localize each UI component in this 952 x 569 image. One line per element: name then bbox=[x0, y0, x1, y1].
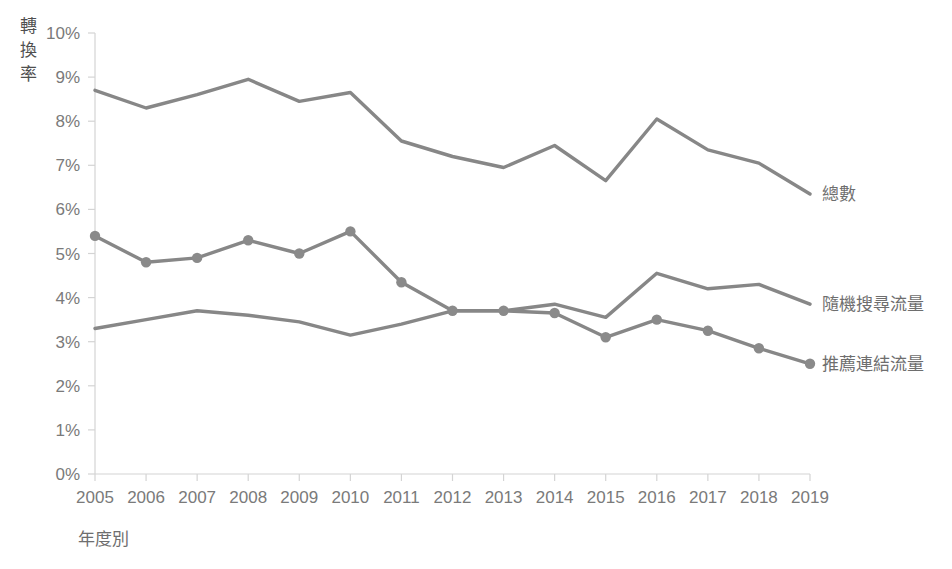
line-chart: 0%1%2%3%4%5%6%7%8%9%10% 2005200620072008… bbox=[0, 0, 952, 569]
x-tick-label: 2016 bbox=[638, 488, 676, 507]
series-marker-point bbox=[652, 314, 662, 324]
series-marker-point bbox=[703, 326, 713, 336]
series-layer bbox=[90, 79, 815, 369]
series-marker-point bbox=[549, 308, 559, 318]
y-tick-label: 10% bbox=[46, 24, 80, 43]
series-line-2 bbox=[95, 231, 810, 363]
series-marker-point bbox=[141, 257, 151, 267]
chart-container: 0%1%2%3%4%5%6%7%8%9%10% 2005200620072008… bbox=[0, 0, 952, 569]
y-tick-label: 7% bbox=[55, 156, 80, 175]
y-axis-title-char: 率 bbox=[20, 65, 38, 84]
x-tick-label: 2010 bbox=[331, 488, 369, 507]
series-marker-point bbox=[498, 306, 508, 316]
series-marker-point bbox=[345, 226, 355, 236]
x-axis-ticks: 2005200620072008200920102011201220132014… bbox=[76, 474, 829, 507]
series-marker-point bbox=[396, 277, 406, 287]
y-tick-label: 1% bbox=[55, 421, 80, 440]
x-tick-label: 2012 bbox=[434, 488, 472, 507]
y-tick-label: 9% bbox=[55, 68, 80, 87]
x-axis-title-label: 年度別 bbox=[78, 530, 129, 549]
series-marker-point bbox=[805, 359, 815, 369]
x-tick-label: 2006 bbox=[127, 488, 165, 507]
y-tick-label: 3% bbox=[55, 333, 80, 352]
series-label-2: 推薦連結流量 bbox=[822, 355, 924, 374]
series-marker-point bbox=[447, 306, 457, 316]
x-tick-label: 2013 bbox=[485, 488, 523, 507]
series-line-1 bbox=[95, 273, 810, 335]
series-label-1: 隨機搜尋流量 bbox=[822, 295, 924, 314]
y-axis-title-char: 轉 bbox=[20, 17, 38, 36]
series-marker-point bbox=[601, 332, 611, 342]
x-tick-label: 2007 bbox=[178, 488, 216, 507]
series-labels: 總數隨機搜尋流量推薦連結流量 bbox=[822, 185, 924, 374]
series-marker-point bbox=[90, 231, 100, 241]
series-marker-point bbox=[754, 343, 764, 353]
series-marker-point bbox=[192, 253, 202, 263]
x-tick-label: 2005 bbox=[76, 488, 114, 507]
series-marker-point bbox=[294, 248, 304, 258]
y-tick-label: 4% bbox=[55, 289, 80, 308]
x-tick-label: 2018 bbox=[740, 488, 778, 507]
series-line-0 bbox=[95, 79, 810, 194]
x-tick-label: 2014 bbox=[536, 488, 574, 507]
y-axis-title-char: 換 bbox=[20, 41, 38, 60]
x-tick-label: 2015 bbox=[587, 488, 625, 507]
series-label-0: 總數 bbox=[822, 185, 856, 204]
y-tick-label: 6% bbox=[55, 200, 80, 219]
y-tick-label: 2% bbox=[55, 377, 80, 396]
y-axis-title: 轉換率 bbox=[20, 17, 38, 84]
x-tick-label: 2011 bbox=[383, 488, 420, 507]
x-tick-label: 2017 bbox=[689, 488, 727, 507]
series-marker-point bbox=[243, 235, 253, 245]
x-tick-label: 2008 bbox=[229, 488, 267, 507]
y-tick-label: 0% bbox=[55, 465, 80, 484]
y-tick-label: 8% bbox=[55, 112, 80, 131]
y-axis-ticks: 0%1%2%3%4%5%6%7%8%9%10% bbox=[46, 24, 95, 484]
x-tick-label: 2019 bbox=[791, 488, 829, 507]
x-tick-label: 2009 bbox=[280, 488, 318, 507]
y-tick-label: 5% bbox=[55, 245, 80, 264]
